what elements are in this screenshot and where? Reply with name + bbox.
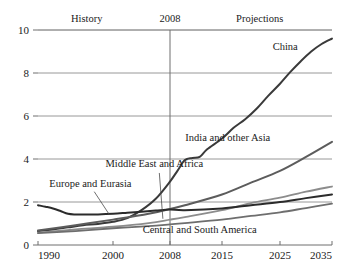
series-label-middle-east-and-africa: Middle East and Africa (106, 158, 204, 169)
y-tick-label-8: 8 (24, 67, 30, 79)
gridlines (38, 30, 332, 202)
y-tick-label-10: 10 (18, 24, 30, 36)
x-tick-label-2015: 2015 (211, 249, 234, 261)
series-label-china: China (273, 41, 298, 52)
top-annotations: History2008Projections (71, 13, 283, 24)
projections-label: Projections (236, 13, 283, 24)
axes (33, 30, 332, 245)
series-label-europe-and-eurasia: Europe and Eurasia (49, 178, 132, 189)
x-tick-label-2000: 2000 (102, 249, 125, 261)
series-label-india-and-other-asia: India and other Asia (185, 132, 270, 143)
y-tick-label-2: 2 (24, 196, 30, 208)
x-tick-label-2035: 2035 (310, 249, 333, 261)
x-tick-label-2025: 2025 (269, 249, 292, 261)
x-axis-tick-labels: 199020002008201520252035 (38, 249, 333, 261)
chart-canvas: 0246810 199020002008201520252035 History… (0, 0, 339, 275)
x-tick-label-1990: 1990 (38, 249, 61, 261)
series-label-central-and-south-america: Central and South America (143, 224, 257, 235)
y-tick-label-6: 6 (24, 110, 30, 122)
leader-line-europe-and-eurasia (94, 192, 109, 215)
series-labels: ChinaIndia and other AsiaMiddle East and… (49, 41, 298, 235)
x-tick-label-2008: 2008 (159, 249, 182, 261)
y-axis-tick-labels: 0246810 (18, 24, 30, 251)
y-tick-label-4: 4 (24, 153, 30, 165)
divider-year-label: 2008 (160, 13, 181, 24)
energy-consumption-line-chart: 0246810 199020002008201520252035 History… (0, 0, 339, 275)
history-label: History (71, 13, 103, 24)
y-tick-label-0: 0 (24, 239, 30, 251)
